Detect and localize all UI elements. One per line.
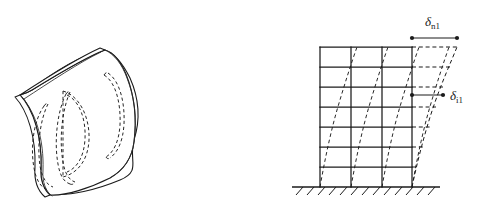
hatch-tick bbox=[428, 187, 435, 195]
hatch-tick bbox=[373, 187, 380, 195]
hatch-tick bbox=[340, 187, 347, 195]
delta-n1-label: δn1 bbox=[425, 14, 440, 31]
hatch-tick bbox=[307, 187, 314, 195]
ground-support bbox=[292, 187, 440, 195]
hatch-tick bbox=[406, 187, 413, 195]
delta-n1-left-dot bbox=[410, 36, 414, 40]
frame-deformed-beams bbox=[412, 47, 457, 167]
delta-i1-left-dot bbox=[410, 93, 414, 97]
hatch-tick bbox=[384, 187, 391, 195]
delta-n1-subscript: n1 bbox=[431, 21, 440, 31]
curved-shell-panel bbox=[15, 48, 138, 197]
multistory-frame: δn1 δi1 bbox=[292, 14, 463, 195]
deformed-column-3 bbox=[382, 47, 419, 187]
hatch-tick bbox=[395, 187, 402, 195]
frame-deformed-columns bbox=[320, 47, 449, 187]
delta-i1-right-dot bbox=[441, 93, 445, 97]
figure-root: Curved shell panel mode shape and multi-… bbox=[0, 0, 492, 214]
hatch-tick bbox=[362, 187, 369, 195]
deformed-column-4 bbox=[412, 47, 449, 187]
hatch-tick bbox=[296, 187, 303, 195]
technical-figure-svg: Curved shell panel mode shape and multi-… bbox=[0, 0, 492, 214]
delta-i1-label: δi1 bbox=[450, 88, 463, 105]
hatch-tick bbox=[329, 187, 336, 195]
deformed-shape-envelope bbox=[412, 47, 457, 187]
ground-hatching bbox=[296, 187, 435, 195]
hatch-tick bbox=[318, 187, 325, 195]
frame-beams bbox=[320, 47, 412, 167]
story-i-displacement-dimension: δi1 bbox=[410, 88, 463, 105]
hatch-tick bbox=[351, 187, 358, 195]
delta-n1-right-dot bbox=[455, 36, 459, 40]
hatch-tick bbox=[417, 187, 424, 195]
delta-i1-subscript: i1 bbox=[456, 95, 463, 105]
roof-displacement-dimension: δn1 bbox=[410, 14, 459, 40]
